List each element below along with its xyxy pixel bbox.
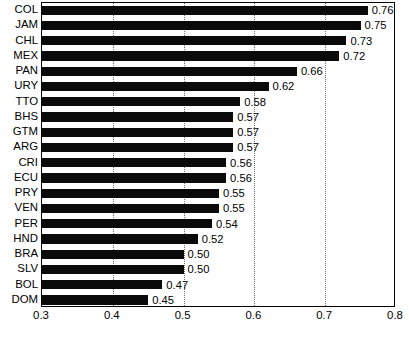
category-label-per: PER [0,216,38,231]
bar-row: 0.57 [42,140,394,155]
bar-row: 0.54 [42,217,394,232]
category-label-bhs: BHS [0,109,38,124]
bar-value-label: 0.55 [223,186,245,200]
bar [42,82,269,91]
bar-value-label: 0.57 [237,140,259,154]
bar-value-label: 0.76 [372,3,394,17]
bar-value-label: 0.75 [365,18,387,32]
category-label-cri: CRI [0,155,38,170]
plot-area: 0.760.750.730.720.660.620.580.570.570.57… [41,2,395,307]
bar-row: 0.66 [42,64,394,79]
category-label-pry: PRY [0,185,38,200]
bar-row: 0.47 [42,278,394,293]
bar-value-label: 0.58 [244,95,266,109]
bar [42,128,233,137]
category-label-ecu: ECU [0,170,38,185]
category-label-tto: TTO [0,94,38,109]
bar [42,250,184,259]
bar-value-label: 0.45 [152,293,174,307]
bar [42,112,233,121]
bar-value-label: 0.54 [216,217,238,231]
bar-row: 0.52 [42,232,394,247]
bar-value-label: 0.50 [188,247,210,261]
category-label-gtm: GTM [0,124,38,139]
bar-row: 0.62 [42,79,394,94]
bar-value-label: 0.55 [223,201,245,215]
category-label-pan: PAN [0,63,38,78]
bar [42,204,219,213]
bar-value-label: 0.66 [301,64,323,78]
bar-row: 0.55 [42,201,394,216]
bar [42,234,198,243]
bar-value-label: 0.50 [188,262,210,276]
bar-value-label: 0.56 [230,171,252,185]
bar-row: 0.56 [42,171,394,186]
bar [42,295,148,304]
bar [42,97,240,106]
bar-row: 0.72 [42,49,394,64]
bar [42,189,219,198]
x-tick-label: 0.5 [175,309,191,321]
bar-value-label: 0.57 [237,110,259,124]
bar [42,51,339,60]
bar [42,280,162,289]
bar [42,219,212,228]
bar-value-label: 0.56 [230,156,252,170]
x-tick-label: 0.3 [33,309,49,321]
bar [42,36,346,45]
x-tick-label: 0.8 [387,309,403,321]
category-label-col: COL [0,2,38,17]
bar-value-label: 0.52 [202,232,224,246]
category-label-chl: CHL [0,33,38,48]
category-label-jam: JAM [0,17,38,32]
category-label-arg: ARG [0,139,38,154]
bar-value-label: 0.72 [343,49,365,63]
bar-value-label: 0.47 [166,278,188,292]
x-axis: 0.30.40.50.60.70.8 [41,307,395,327]
bar-series: 0.760.750.730.720.660.620.580.570.570.57… [42,3,394,306]
category-label-ven: VEN [0,200,38,215]
bar-value-label: 0.73 [350,34,372,48]
bar-chart-figure: COLJAMCHLMEXPANURYTTOBHSGTMARGCRIECUPRYV… [0,0,409,342]
bar-value-label: 0.57 [237,125,259,139]
figure-caption [7,331,402,342]
bar-row: 0.56 [42,156,394,171]
bar-row: 0.50 [42,247,394,262]
category-label-mex: MEX [0,48,38,63]
bar-row: 0.58 [42,95,394,110]
bar-row: 0.73 [42,34,394,49]
bar [42,21,361,30]
category-label-slv: SLV [0,261,38,276]
bar [42,67,297,76]
bar [42,173,226,182]
bar-row: 0.50 [42,262,394,277]
category-label-bra: BRA [0,246,38,261]
category-label-dom: DOM [0,292,38,307]
bar [42,6,368,15]
bar-row: 0.76 [42,3,394,18]
category-label-bol: BOL [0,277,38,292]
bar-value-label: 0.62 [273,79,295,93]
category-axis-labels: COLJAMCHLMEXPANURYTTOBHSGTMARGCRIECUPRYV… [0,2,38,307]
bar [42,158,226,167]
bar-row: 0.57 [42,110,394,125]
bar-row: 0.55 [42,186,394,201]
bar-row: 0.75 [42,18,394,33]
bar [42,143,233,152]
x-tick-label: 0.7 [316,309,332,321]
bar-row: 0.45 [42,293,394,308]
x-tick-label: 0.4 [104,309,120,321]
x-tick-label: 0.6 [245,309,261,321]
category-label-ury: URY [0,78,38,93]
bar-row: 0.57 [42,125,394,140]
category-label-hnd: HND [0,231,38,246]
bar [42,265,184,274]
